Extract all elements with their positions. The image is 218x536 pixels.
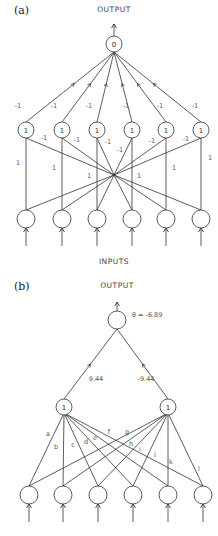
weight-label-j: j [153,450,156,458]
panel-b-edges [27,302,206,522]
panel-b-nodes: 11 [20,311,212,504]
weight-label-b: b [54,443,58,451]
edge-input-to-hidden [29,413,168,486]
weight-label-neg-9-44: -9.44 [138,375,155,383]
hidden-node-label: 1 [164,127,168,135]
weight-label-hidden-output: -1 [15,102,21,110]
input-node [192,210,210,228]
weight-label-c: c [71,441,75,449]
weight-label-cross: -1 [149,137,155,145]
panel-a-nodes: 0111111 [17,36,210,228]
edge-hidden-to-output [114,52,132,122]
input-node [89,486,107,504]
output-node-label: 0 [112,41,116,49]
edge-cross [114,138,132,175]
hidden-node-label: 1 [24,127,28,135]
edge-input-to-hidden [64,413,98,486]
edge-hidden-to-output [97,52,114,122]
panel-a-label: (a) [14,4,29,17]
hidden-node-label: 1 [130,127,134,135]
weight-label-hidden-output: -1 [123,102,129,110]
threshold-label: θ = -6.89 [132,311,162,319]
edge-input-to-hidden [63,413,64,486]
hidden-node-label: 1 [199,127,203,135]
weight-label-9-44: 9.44 [89,375,103,383]
input-node [157,210,175,228]
hidden-node-label: 1 [60,127,64,135]
edge-input-to-hidden [98,413,168,486]
input-node [17,210,35,228]
weight-label-cross: -1 [41,134,47,142]
weight-label-straight: 1 [137,172,141,180]
hidden-node-label: 1 [95,127,99,135]
weight-label-straight: 1 [208,154,212,162]
input-node [88,210,106,228]
weight-label-d: d [84,438,88,446]
weight-label-h: h [129,440,133,448]
panel-a-output-caption: OUTPUT [97,5,131,14]
weight-label-straight: 1 [16,159,20,167]
weight-label-e: e [93,434,97,442]
hidden-node-label: 1 [166,404,170,412]
hidden-node-label: 1 [62,404,66,412]
weight-label-i: i [139,445,141,453]
weight-label-hidden-output: -1 [192,102,198,110]
weight-label-l: l [198,465,200,473]
weight-label-straight: 1 [87,172,91,180]
panel-a-edges [24,24,204,246]
weight-label-hidden-output: -1 [157,102,163,110]
input-node [194,486,212,504]
input-node [159,486,177,504]
edge-cross [114,138,201,175]
weight-label-cross: -1 [183,135,189,143]
neural-network-diagrams: (a) OUTPUT INPUTS 0111111 -1-1-1-1-1-111… [0,0,218,536]
edge-hidden-to-output [114,52,201,122]
input-node [124,486,142,504]
weight-label-k: k [169,458,173,466]
input-node [20,486,38,504]
weight-label-hidden-output: -1 [86,102,92,110]
weight-label-a: a [46,430,50,438]
output-node [108,311,126,329]
edge-input-to-hidden [168,413,203,486]
input-node [54,486,72,504]
input-node [123,210,141,228]
weight-label-straight: 1 [52,164,56,172]
weight-label-straight: 1 [172,164,176,172]
weight-label-f: f [108,428,111,436]
weight-label-hidden-output: -1 [51,102,57,110]
panel-a-inputs-caption: INPUTS [99,257,129,266]
edge-cross-to-input [114,175,132,210]
weight-label-cross: -1 [105,138,111,146]
edge-input-to-hidden [29,413,64,486]
input-node [53,210,71,228]
weight-label-cross: -1 [74,136,80,144]
panel-b-output-caption: OUTPUT [100,281,134,290]
weight-label-cross: -1 [117,146,123,154]
edge-hidden-to-output [114,52,166,122]
panel-b-label: (b) [14,280,30,293]
panel-a-weight-labels: -1-1-1-1-1-1111111-1-1-1-1-1-1 [15,102,212,180]
weight-label-g: g [125,428,129,436]
